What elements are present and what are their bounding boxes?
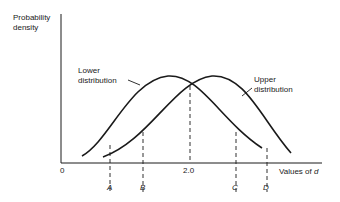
lower-label-leader (128, 80, 140, 85)
marker-label-c: C (232, 183, 238, 193)
marker-label-b: B (140, 183, 145, 193)
upper-distribution-label: Upper distribution (254, 75, 293, 95)
y-axis-label-line2: density (13, 23, 50, 33)
lower-distribution-curve (82, 76, 262, 156)
x-axis-label-text: Values of (279, 167, 314, 176)
lower-distribution-label: Lower distribution (78, 66, 117, 86)
y-axis-label: Probability density (13, 13, 50, 33)
marker-label-d: D (263, 183, 269, 193)
center-tick-label: 2.0 (183, 166, 194, 176)
x-axis-variable: d (314, 167, 318, 176)
upper-label-line1: Upper (254, 75, 293, 85)
marker-label-a: A (107, 183, 112, 193)
y-axis-label-line1: Probability (13, 13, 50, 23)
origin-label: 0 (60, 166, 64, 176)
lower-label-line1: Lower (78, 66, 117, 76)
x-axis-label: Values of d (279, 167, 318, 177)
lower-label-line2: distribution (78, 76, 117, 86)
upper-label-line2: distribution (254, 85, 293, 95)
